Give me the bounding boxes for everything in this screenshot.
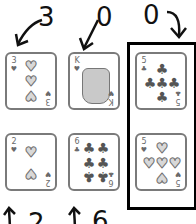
card-corner: 5♥ <box>140 138 148 154</box>
card-5-clubs: 5♣ ♣ ♣ ♣ ♣ ♣ 5♣ <box>135 52 187 110</box>
card-corner: 6♣ <box>73 138 81 154</box>
card-corner: K♥ <box>107 89 115 105</box>
arrow-curved-down-icon <box>165 6 191 40</box>
label-top-col3: 0 <box>143 2 160 28</box>
heart-icon: ♥ <box>24 167 38 181</box>
heart-icon: ♥ <box>155 156 169 170</box>
heart-icon: ♥ <box>24 74 38 88</box>
card-corner: 6♣ <box>107 170 115 186</box>
arrow-up-icon <box>3 205 17 224</box>
card-corner: 3♥ <box>44 89 52 105</box>
card-corner: 5♥ <box>174 170 182 186</box>
club-icon: ♣ <box>155 62 169 76</box>
heart-icon: ♥ <box>142 156 156 170</box>
arrow-up-icon <box>68 205 82 224</box>
heart-icon: ♥ <box>155 141 169 155</box>
label-bottom-col2: 6 <box>92 208 109 224</box>
club-icon: ♣ <box>96 156 110 170</box>
club-icon: ♣ <box>82 156 96 170</box>
card-corner: 2♥ <box>10 138 18 154</box>
card-corner: 5♣ <box>140 57 148 73</box>
heart-icon: ♥ <box>24 145 38 159</box>
card-king-hearts: K♥ K♥ <box>68 52 120 110</box>
card-corner: K♥ <box>73 57 81 73</box>
heart-icon: ♥ <box>24 59 38 73</box>
club-icon: ♣ <box>155 90 169 104</box>
card-2-hearts: 2♥ ♥ ♥ 2♥ <box>5 133 57 191</box>
heart-icon: ♥ <box>168 156 182 170</box>
club-icon: ♣ <box>82 141 96 155</box>
heart-icon: ♥ <box>24 89 38 103</box>
arrow-down-left-icon <box>10 14 50 54</box>
arrow-down-left-icon <box>76 16 106 52</box>
club-icon: ♣ <box>96 141 110 155</box>
label-bottom-col1: 2 <box>28 210 45 224</box>
club-icon: ♣ <box>82 170 96 184</box>
card-3-hearts: 3♥ ♥ ♥ ♥ 3♥ <box>5 52 57 110</box>
card-corner: 2♥ <box>44 170 52 186</box>
card-5-hearts: 5♥ ♥ ♥ ♥ ♥ ♥ 5♥ <box>135 133 187 191</box>
heart-icon: ♥ <box>155 171 169 185</box>
card-corner: 5♣ <box>174 89 182 105</box>
cat-king-illustration <box>82 68 110 104</box>
card-6-clubs: 6♣ ♣ ♣ ♣ ♣ ♣ ♣ 6♣ <box>68 133 120 191</box>
card-corner: 3♥ <box>10 57 18 73</box>
club-icon: ♣ <box>167 76 181 90</box>
